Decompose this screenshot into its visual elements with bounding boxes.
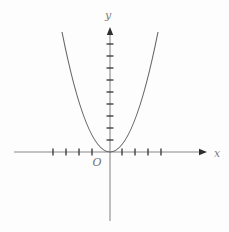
- y-axis-arrowhead: [107, 27, 113, 35]
- x-axis-label: x: [214, 147, 221, 160]
- figure-canvas: y x O: [0, 0, 229, 232]
- x-axis-arrowhead: [199, 149, 207, 155]
- coordinate-plane: y x O: [0, 0, 229, 232]
- axes-group: [14, 27, 207, 221]
- origin-label: O: [92, 156, 101, 169]
- y-axis-label: y: [104, 9, 112, 22]
